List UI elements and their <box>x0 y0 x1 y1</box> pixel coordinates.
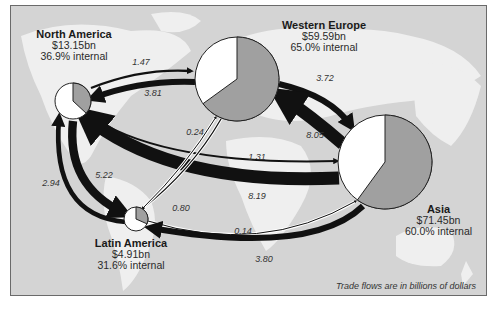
flow-label-la-asia: 0.14 <box>234 226 252 236</box>
region-internal: 31.6% internal <box>76 260 186 271</box>
flow-label-la-na: 2.94 <box>42 178 60 188</box>
footnote: Trade flows are in billions of dollars <box>336 281 476 291</box>
flow-label-na-asia: 1.31 <box>248 152 266 162</box>
label-asia: Asia $71.45bn 60.0% internal <box>391 204 486 237</box>
flow-label-na-we: 1.47 <box>132 57 150 67</box>
region-internal: 60.0% internal <box>391 226 486 237</box>
flow-label-asia-la: 3.80 <box>255 254 273 264</box>
label-latin-america: Latin America $4.91bn 31.6% internal <box>76 238 186 271</box>
trade-flow-map: North America $13.15bn 36.9% internal We… <box>10 5 487 296</box>
flow-label-we-na: 3.81 <box>144 88 162 98</box>
flow-label-we-asia: 3.72 <box>316 73 334 83</box>
flow-label-asia-we: 8.05 <box>306 130 324 140</box>
label-western-europe: Western Europe $59.59bn 65.0% internal <box>269 20 379 53</box>
flow-label-na-la: 5.22 <box>95 170 113 180</box>
region-internal: 36.9% internal <box>19 51 129 62</box>
flow-label-we-la: 0.80 <box>172 203 190 213</box>
flow-label-asia-na: 8.19 <box>248 191 266 201</box>
region-internal: 65.0% internal <box>269 42 379 53</box>
label-north-america: North America $13.15bn 36.9% internal <box>19 29 129 62</box>
flow-label-la-we: 0.24 <box>186 127 204 137</box>
